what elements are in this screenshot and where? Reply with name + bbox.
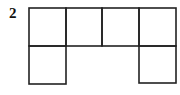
cell-r1-c3 [139,46,176,83]
net-diagram [0,0,180,95]
cell-r1-c0 [29,46,66,84]
cell-r0-c0 [29,8,66,46]
cell-r0-c2 [102,8,139,46]
cell-r0-c3 [139,8,176,46]
cell-r0-c1 [66,8,102,46]
